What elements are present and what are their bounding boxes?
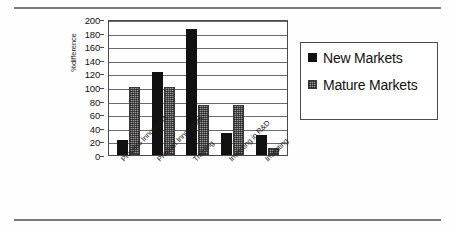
y-axis-tick-label: 140 [85, 55, 100, 66]
y-axis-tick-labels: 020406080100120140160180200 [72, 20, 104, 156]
legend-label-mature-markets: Mature Markets [323, 77, 417, 93]
legend-item-new-markets: New Markets [308, 50, 431, 66]
y-axis-tick-label: 60 [90, 110, 100, 121]
top-divider-rule [14, 7, 441, 9]
chart-figure: %difference 020406080100120140160180200 … [0, 0, 455, 233]
legend-swatch-icon-new-markets [308, 53, 317, 62]
x-axis-tick-labels: Process InnovatorsProduct InnovatorsTrai… [108, 157, 288, 217]
y-axis-tick-mark [100, 142, 104, 143]
bar-group [186, 21, 209, 155]
y-axis-tick-label: 200 [85, 15, 100, 26]
y-axis-tick-mark [100, 115, 104, 116]
y-axis-tick-mark [100, 129, 104, 130]
y-axis-tick-label: 120 [85, 69, 100, 80]
y-axis-tick-mark [100, 156, 104, 157]
chart-legend: New Markets Mature Markets [300, 42, 438, 120]
y-axis-tick-mark [100, 34, 104, 35]
y-axis-tick-label: 180 [85, 28, 100, 39]
y-axis-tick-label: 160 [85, 42, 100, 53]
y-axis-tick-label: 100 [85, 83, 100, 94]
y-axis-tick-mark [100, 47, 104, 48]
y-axis-tick-mark [100, 88, 104, 89]
y-axis-tick-label: 20 [90, 137, 100, 148]
y-axis-tick-label: 80 [90, 96, 100, 107]
bar-group [117, 21, 140, 155]
y-axis-tick-mark [100, 102, 104, 103]
bar-group [152, 21, 175, 155]
y-axis-tick-mark [100, 61, 104, 62]
bar-group [221, 21, 244, 155]
y-axis-tick-label: 40 [90, 123, 100, 134]
y-axis-tick-mark [100, 74, 104, 75]
legend-item-mature-markets: Mature Markets [308, 77, 431, 93]
legend-swatch-icon-mature-markets [308, 80, 317, 89]
y-axis-tick-mark [100, 20, 104, 21]
legend-label-new-markets: New Markets [323, 50, 402, 66]
bottom-divider-rule [14, 219, 441, 221]
